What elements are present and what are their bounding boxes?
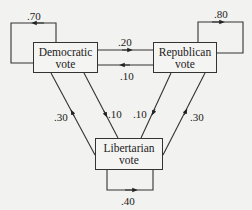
node-label-line2: vote: [56, 58, 76, 70]
edge-rep-to-lib: [141, 73, 171, 138]
node-libertarian-vote: Libertarian vote: [95, 138, 163, 170]
node-label-line1: Republican: [159, 46, 211, 58]
edge-label-rep-to-lib: .10: [133, 109, 147, 120]
node-label-line2: vote: [119, 154, 139, 166]
edge-label-rep-self: .80: [214, 9, 228, 20]
edge-label-dem-self: .70: [27, 11, 41, 22]
node-republican-vote: Republican vote: [153, 42, 217, 73]
edge-label-dem-to-lib: .10: [108, 109, 122, 120]
edge-label-lib-self: .40: [121, 196, 135, 207]
node-label-line1: Democratic: [39, 46, 93, 58]
node-democratic-vote: Democratic vote: [33, 42, 98, 73]
edge-label-lib-to-dem: .30: [54, 112, 68, 123]
node-label-line2: vote: [175, 58, 195, 70]
edge-label-dem-to-rep: .20: [118, 37, 132, 48]
edge-label-lib-to-rep: .30: [190, 112, 204, 123]
edge-dem-to-lib: [84, 73, 118, 138]
node-label-line1: Libertarian: [103, 142, 154, 154]
transition-diagram: [0, 0, 252, 210]
edge-label-rep-to-dem: .10: [120, 71, 134, 82]
self-loop-libertarian: [107, 170, 153, 190]
